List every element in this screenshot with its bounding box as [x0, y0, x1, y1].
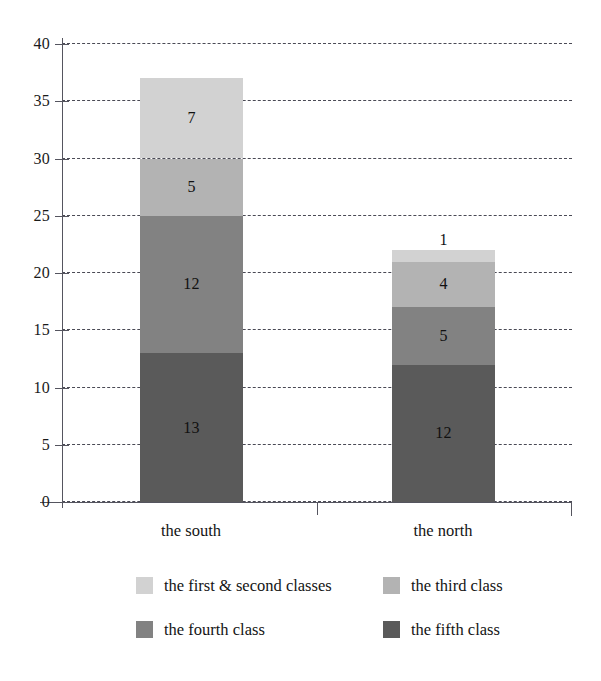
y-tick-30 — [55, 159, 69, 160]
y-tick-label-5: 5 — [8, 437, 50, 453]
x-axis-center-tick — [317, 502, 318, 515]
y-tick-label-40: 40 — [8, 36, 50, 52]
legend-swatch-icon — [383, 621, 400, 638]
x-axis-label-the-south: the south — [101, 521, 281, 540]
chart-legend: the first & second classes the third cla… — [0, 566, 601, 666]
bar-segment-the-north-fourth-class[interactable]: 5 — [392, 307, 495, 364]
y-tick-5 — [55, 445, 69, 446]
gridline-10 — [62, 387, 572, 388]
gridline-25 — [62, 215, 572, 216]
y-tick-label-0: 0 — [8, 494, 50, 510]
x-axis-label-the-north: the north — [353, 521, 533, 540]
stacked-bar-chart: 40 35 30 25 20 15 10 5 0 13 12 5 — [0, 0, 601, 560]
y-tick-15 — [55, 330, 69, 331]
gridline-20 — [62, 272, 572, 273]
y-tick-20 — [55, 273, 69, 274]
plot-area — [62, 44, 572, 502]
gridline-30 — [62, 158, 572, 159]
x-axis-line — [40, 502, 572, 503]
bar-segment-the-south-fourth-class[interactable]: 12 — [140, 216, 243, 353]
y-tick-label-15: 15 — [8, 322, 50, 338]
legend-item-third-class[interactable]: the third class — [383, 576, 503, 595]
bar-value-label: 12 — [183, 276, 199, 292]
bar-segment-the-north-third-class[interactable]: 4 — [392, 262, 495, 308]
legend-item-fifth-class[interactable]: the fifth class — [383, 620, 500, 639]
y-tick-label-20: 20 — [8, 265, 50, 281]
bar-segment-the-south-fifth-class[interactable]: 13 — [140, 353, 243, 502]
y-tick-label-30: 30 — [8, 151, 50, 167]
legend-swatch-icon — [383, 577, 400, 594]
y-tick-40 — [55, 44, 69, 45]
gridline-5 — [62, 444, 572, 445]
bar-value-label: 5 — [439, 328, 447, 344]
bar-value-label: 5 — [187, 179, 195, 195]
y-tick-label-35: 35 — [8, 93, 50, 109]
bar-the-south[interactable]: 13 12 5 7 — [140, 44, 243, 502]
legend-item-fourth-class[interactable]: the fourth class — [136, 620, 265, 639]
x-axis-right-end — [571, 502, 572, 516]
y-tick-label-10: 10 — [8, 380, 50, 396]
legend-swatch-icon — [136, 577, 153, 594]
legend-label: the fifth class — [411, 620, 500, 639]
y-tick-35 — [55, 101, 69, 102]
gridline-35 — [62, 100, 572, 101]
y-tick-10 — [55, 388, 69, 389]
gridline-40 — [62, 43, 572, 44]
legend-swatch-icon — [136, 621, 153, 638]
legend-label: the first & second classes — [164, 576, 332, 595]
bar-the-north[interactable]: 12 5 4 1 — [392, 44, 495, 502]
legend-label: the third class — [411, 576, 503, 595]
bar-segment-the-north-first-second-classes[interactable] — [392, 250, 495, 261]
legend-item-first-second-classes[interactable]: the first & second classes — [136, 576, 332, 595]
legend-label: the fourth class — [164, 620, 265, 639]
bar-value-label: 13 — [183, 420, 199, 436]
bar-value-label: 1 — [392, 232, 495, 248]
gridline-15 — [62, 329, 572, 330]
bar-value-label: 7 — [187, 110, 195, 126]
bar-value-label: 4 — [439, 276, 447, 292]
y-tick-0 — [55, 502, 69, 503]
bar-segment-the-north-fifth-class[interactable]: 12 — [392, 365, 495, 502]
bar-value-label: 12 — [435, 425, 451, 441]
y-tick-label-25: 25 — [8, 208, 50, 224]
bar-segment-the-south-third-class[interactable]: 5 — [140, 159, 243, 216]
bar-segment-the-south-first-second-classes[interactable]: 7 — [140, 78, 243, 158]
y-tick-25 — [55, 216, 69, 217]
